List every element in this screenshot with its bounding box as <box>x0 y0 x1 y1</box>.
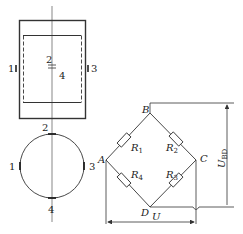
gauge-label-1: 1 <box>8 63 14 74</box>
wheatstone-bridge: A B C D R1 R2 R4 R3 U UBD <box>97 103 234 224</box>
strain-gauge-bridge-diagram: 1 2 3 4 2 1 3 4 A B C D R1 R2 R4 <box>0 0 243 234</box>
resistor-label-r1: R1 <box>130 142 143 155</box>
output-wire-D <box>150 207 234 210</box>
node-label-D: D <box>140 207 149 218</box>
supply-voltage-label: U <box>152 211 161 222</box>
cs-label-3: 3 <box>89 161 95 172</box>
gauge-label-3: 3 <box>91 63 97 74</box>
cs-label-4: 4 <box>48 204 54 215</box>
node-label-B: B <box>141 104 149 115</box>
resistor-r1 <box>117 133 131 147</box>
gauge-label-4: 4 <box>59 70 65 81</box>
resistor-r4 <box>117 173 131 187</box>
node-label-A: A <box>97 154 105 165</box>
cs-label-2: 2 <box>42 122 48 133</box>
node-label-C: C <box>200 153 208 164</box>
gauge-label-2: 2 <box>46 54 52 65</box>
cs-label-1: 1 <box>9 161 15 172</box>
cylinder-front-view: 1 2 3 4 <box>8 6 97 222</box>
resistor-label-r4: R4 <box>130 169 144 182</box>
